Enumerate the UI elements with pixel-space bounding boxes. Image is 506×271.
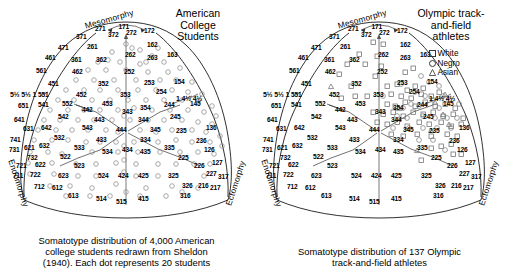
somatotype-label: 731 [262,147,273,154]
somatotype-label: 227 [206,171,217,178]
somatotype-label: 353 [373,92,384,99]
somatotype-label: 514 [349,196,360,203]
somatotype-label: 271 [348,26,359,33]
somatotype-label: 621 [24,145,35,152]
somatotype-label: 353 [120,92,131,99]
somatotype-label: 217 [210,185,221,192]
somatotype-label: 272 [379,30,390,37]
somatotype-label: 225 [431,155,442,162]
somatotype-label: 722 [30,172,41,179]
somatotype-label: 612 [52,185,63,192]
somatotype-label: 524 [351,173,362,180]
somatotype-label: 361 [324,57,335,64]
somatotype-label: 435 [140,149,151,156]
somatotype-label: 162 [400,42,411,49]
somatotype-label: 453 [355,101,366,108]
somatotype-label: 326 [182,183,193,190]
somatotype-label: 551 [38,92,49,99]
somatotype-label: 415 [138,196,149,203]
somatotype-label: 461 [298,55,309,62]
somatotype-label: 317 [471,174,482,181]
somatotype-label: 651 [271,103,282,110]
somatotype-label: 424 [118,173,129,180]
somatotype-label: 442 [335,107,346,114]
somatotype-label: 162 [147,42,158,49]
somatotype-label: 136 [206,125,217,132]
somatotype-label: 262 [378,52,389,59]
caption-right: Somatotype distribution of 137 Olympic t… [257,246,502,268]
somatotype-label: 541 [38,102,49,109]
somatotype-label: 444 [369,127,380,134]
somatotype-label: 425 [391,173,402,180]
somatotype-label: 462 [72,69,83,76]
somatotype-label: 216 [451,183,462,190]
somatotype-label: 354 [140,105,151,112]
somatotype-label: 252 [124,69,135,76]
somatotype-label: 225 [178,155,189,162]
somatotype-label: 372 [108,32,119,39]
somatotype-label: 551 [291,92,302,99]
somatotype-label: 154 [174,79,185,86]
somatotype-label: 433 [96,137,107,144]
somatotype-label: 542 [58,114,69,121]
somatotype-label: 145 [190,101,201,108]
somatotype-label: 163 [167,52,178,59]
somatotype-label: 154 [427,79,438,86]
somatotype-label: 361 [71,57,82,64]
somatotype-label: 471 [311,45,322,52]
somatotype-label: 641 [14,117,25,124]
somatotype-label: 227 [459,171,470,178]
somatotype-label: 534 [355,149,366,156]
somatotype-label: 711 [13,173,23,180]
somatotype-label: 541 [291,102,302,109]
caption-left: Somatotype distribution of 4,000 America… [4,235,249,268]
somatotype-label: 461 [45,55,56,62]
legend-row: Negro [429,59,460,69]
somatotype-label: 462 [325,69,336,76]
somatotype-label: 623 [58,173,69,180]
legend: WhiteNegroAsian [429,49,460,78]
somatotype-label: 612 [305,185,316,192]
somatotype-label: 561 [289,68,300,75]
somatotype-label: 433 [349,137,360,144]
somatotype-label: 262 [125,52,136,59]
legend-row: Asian [429,68,460,78]
somatotype-label: 651 [18,103,29,110]
somatotype-label: 424 [371,173,382,180]
somatotype-label: 244 [164,102,175,109]
somatotype-label: 613 [68,193,79,200]
somatotype-label: 126 [204,147,215,154]
somatotype-label: 442 [82,107,93,114]
somatotype-label: 236 [196,138,207,145]
somatotype-label: 127 [465,160,476,167]
legend-label: Asian [438,68,458,78]
somatotype-label: 345 [403,127,414,134]
somatotype-label: 217 [463,185,474,192]
somatotype-label: 471 [58,45,69,52]
panel-american-college-students: Mesomorphy Endomorphy Ectomorphy 5½ 5½ 1… [0,0,253,271]
somatotype-label: 533 [74,145,85,152]
panel-title-right: Olympic track- and-field athletes [401,8,501,43]
somatotype-label: 524 [98,173,109,180]
somatotype-label: 641 [267,117,278,124]
somatotype-label: 515 [369,199,380,206]
somatotype-label: 532 [307,135,318,142]
somatotype-label: 326 [435,183,446,190]
somatotype-label: 352 [98,81,109,88]
somatotype-label: 435 [393,149,404,156]
somatotype-label: 261 [340,44,351,51]
somatotype-label: 515 [116,199,127,206]
somatotype-label: 354 [393,105,404,112]
somatotype-label: 325 [421,173,432,180]
somatotype-label: 316 [180,193,191,200]
somatotype-label: 343 [122,109,133,116]
somatotype-label: 263 [147,55,158,62]
somatotype-label: 642 [41,125,52,132]
somatotype-label: 443 [347,117,358,124]
somatotype-label: 523 [74,163,85,170]
somatotype-label: 235 [176,128,187,135]
somatotype-label: 514 [96,196,107,203]
somatotype-label: 451 [48,81,59,88]
somatotype-label: 145 [443,101,454,108]
somatotype-label: 316 [433,193,444,200]
